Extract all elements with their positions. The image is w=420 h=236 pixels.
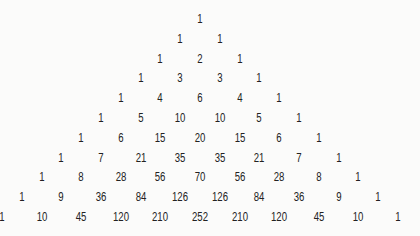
triangle-cell: 2 [197, 53, 202, 65]
triangle-cell: 252 [192, 211, 208, 223]
triangle-cell: 1 [158, 53, 163, 65]
triangle-cell: 3 [178, 72, 183, 84]
triangle-cell: 10 [175, 112, 186, 124]
triangle-cell: 1 [19, 191, 24, 203]
triangle-cell: 20 [195, 132, 206, 144]
triangle-cell: 9 [336, 191, 341, 203]
triangle-cell: 1 [277, 92, 282, 104]
triangle-cell: 1 [178, 33, 183, 45]
triangle-cell: 6 [277, 132, 282, 144]
triangle-cell: 210 [232, 211, 248, 223]
triangle-cell: 84 [135, 191, 146, 203]
triangle-cell: 1 [118, 92, 123, 104]
triangle-cell: 5 [138, 112, 143, 124]
triangle-cell: 10 [214, 112, 225, 124]
triangle-cell: 1 [336, 152, 341, 164]
triangle-cell: 35 [214, 152, 225, 164]
triangle-cell: 21 [135, 152, 146, 164]
triangle-cell: 1 [356, 171, 361, 183]
triangle-cell: 15 [155, 132, 166, 144]
triangle-cell: 1 [395, 211, 400, 223]
triangle-cell: 126 [212, 191, 228, 203]
triangle-cell: 36 [294, 191, 305, 203]
triangle-cell: 10 [353, 211, 364, 223]
triangle-cell: 56 [155, 171, 166, 183]
triangle-cell: 45 [313, 211, 324, 223]
triangle-cell: 6 [118, 132, 123, 144]
triangle-cell: 210 [152, 211, 168, 223]
triangle-cell: 1 [257, 72, 262, 84]
pascal-triangle: 1111211331146411510105116152015611721353… [0, 0, 420, 236]
triangle-cell: 9 [59, 191, 64, 203]
triangle-cell: 1 [197, 13, 202, 25]
triangle-cell: 1 [237, 53, 242, 65]
triangle-cell: 1 [217, 33, 222, 45]
triangle-cell: 7 [98, 152, 103, 164]
triangle-cell: 35 [175, 152, 186, 164]
triangle-cell: 45 [76, 211, 87, 223]
triangle-cell: 120 [271, 211, 287, 223]
triangle-cell: 4 [158, 92, 163, 104]
triangle-cell: 28 [115, 171, 126, 183]
triangle-cell: 70 [195, 171, 206, 183]
triangle-cell: 1 [39, 171, 44, 183]
triangle-cell: 1 [138, 72, 143, 84]
triangle-cell: 8 [79, 171, 84, 183]
triangle-cell: 1 [376, 191, 381, 203]
triangle-cell: 1 [98, 112, 103, 124]
triangle-cell: 120 [113, 211, 129, 223]
triangle-cell: 8 [316, 171, 321, 183]
triangle-cell: 84 [254, 191, 265, 203]
triangle-cell: 1 [316, 132, 321, 144]
triangle-cell: 1 [59, 152, 64, 164]
triangle-cell: 3 [217, 72, 222, 84]
triangle-cell: 6 [197, 92, 202, 104]
triangle-cell: 1 [296, 112, 301, 124]
triangle-cell: 126 [172, 191, 188, 203]
triangle-cell: 7 [296, 152, 301, 164]
triangle-cell: 1 [0, 211, 5, 223]
triangle-cell: 15 [234, 132, 245, 144]
triangle-cell: 28 [274, 171, 285, 183]
triangle-cell: 36 [96, 191, 107, 203]
triangle-cell: 56 [234, 171, 245, 183]
triangle-cell: 21 [254, 152, 265, 164]
triangle-cell: 4 [237, 92, 242, 104]
triangle-cell: 10 [36, 211, 47, 223]
triangle-cell: 1 [79, 132, 84, 144]
triangle-cell: 5 [257, 112, 262, 124]
